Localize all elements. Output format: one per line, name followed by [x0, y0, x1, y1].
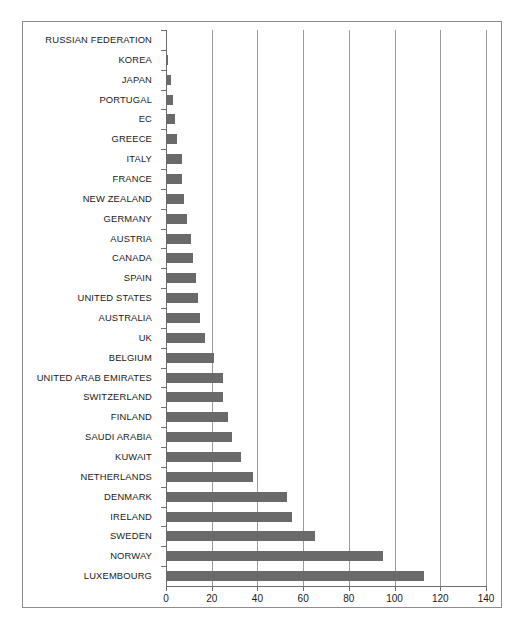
bar [166, 512, 292, 522]
x-tick-label: 140 [478, 593, 495, 604]
category-label: NETHERLANDS [81, 472, 152, 482]
category-label: LUXEMBOURG [84, 571, 152, 581]
y-tick [161, 209, 166, 210]
x-tick-label: 0 [163, 593, 169, 604]
category-label: JAPAN [122, 75, 152, 85]
category-label: KUWAIT [115, 452, 152, 462]
x-tick-mark-80 [349, 586, 350, 591]
bar [166, 531, 315, 541]
bar [166, 373, 223, 383]
bar [166, 174, 182, 184]
x-tick-label: 120 [432, 593, 449, 604]
x-tick-mark-0 [166, 586, 167, 591]
bar [166, 472, 253, 482]
x-tick-label: 60 [298, 593, 309, 604]
bar [166, 134, 177, 144]
category-label: FRANCE [113, 174, 152, 184]
x-tick-mark-140 [486, 586, 487, 591]
y-tick [161, 507, 166, 508]
y-tick [161, 50, 166, 51]
category-label: UK [139, 333, 152, 343]
bars-layer [166, 30, 486, 586]
category-label: GERMANY [104, 214, 152, 224]
y-tick [161, 169, 166, 170]
bar [166, 273, 196, 283]
y-tick [161, 546, 166, 547]
bar [166, 571, 424, 581]
y-tick [161, 149, 166, 150]
y-tick [161, 268, 166, 269]
y-tick [161, 328, 166, 329]
bar [166, 452, 241, 462]
y-tick [161, 526, 166, 527]
bar [166, 95, 173, 105]
bar [166, 333, 205, 343]
y-tick [161, 70, 166, 71]
category-label: PORTUGAL [99, 95, 152, 105]
y-tick [161, 348, 166, 349]
category-label: UNITED STATES [77, 293, 152, 303]
y-tick [161, 387, 166, 388]
bar [166, 313, 200, 323]
category-label: KOREA [118, 55, 152, 65]
bar [166, 353, 214, 363]
y-tick [161, 566, 166, 567]
category-label: GREECE [112, 134, 153, 144]
y-tick [161, 427, 166, 428]
bar [166, 432, 232, 442]
y-tick [161, 288, 166, 289]
y-tick [161, 109, 166, 110]
category-label: FINLAND [111, 412, 152, 422]
bar [166, 214, 187, 224]
y-tick [161, 90, 166, 91]
y-tick [161, 248, 166, 249]
chart-frame: RUSSIAN FEDERATIONKOREAJAPANPORTUGALECGR… [22, 21, 502, 608]
category-label: AUSTRIA [110, 234, 152, 244]
bar [166, 234, 191, 244]
bar [166, 412, 228, 422]
category-label: BELGIUM [109, 353, 152, 363]
bar [166, 492, 287, 502]
x-tick-mark-20 [212, 586, 213, 591]
bar [166, 253, 193, 263]
plot-area [166, 30, 486, 586]
x-tick-mark-100 [395, 586, 396, 591]
y-tick [161, 447, 166, 448]
category-label: DENMARK [104, 492, 152, 502]
category-label: SWEDEN [110, 531, 152, 541]
x-tick-mark-60 [303, 586, 304, 591]
category-label: NORWAY [110, 551, 152, 561]
y-tick [161, 467, 166, 468]
category-label: SWITZERLAND [83, 392, 152, 402]
y-tick [161, 189, 166, 190]
y-tick [161, 308, 166, 309]
category-label: AUSTRALIA [99, 313, 152, 323]
x-tick-mark-120 [440, 586, 441, 591]
x-tick-label: 40 [252, 593, 263, 604]
bar [166, 392, 223, 402]
bar [166, 154, 182, 164]
x-tick-label: 80 [343, 593, 354, 604]
bar [166, 293, 198, 303]
category-label: IRELAND [110, 512, 152, 522]
y-tick [161, 229, 166, 230]
category-label: EC [139, 114, 152, 124]
category-label: CANADA [112, 253, 152, 263]
y-tick [161, 487, 166, 488]
category-label: RUSSIAN FEDERATION [45, 35, 152, 45]
category-label: UNITED ARAB EMIRATES [37, 373, 152, 383]
bar [166, 114, 175, 124]
category-label: SAUDI ARABIA [85, 432, 152, 442]
category-label: SPAIN [124, 273, 152, 283]
y-tick [161, 129, 166, 130]
y-tick [161, 30, 166, 31]
y-tick [161, 407, 166, 408]
x-axis-line [166, 586, 487, 587]
y-tick [161, 368, 166, 369]
category-label: NEW ZEALAND [83, 194, 152, 204]
x-tick-mark-40 [257, 586, 258, 591]
gridline-140 [486, 30, 487, 586]
x-tick-label: 20 [206, 593, 217, 604]
bar [166, 75, 171, 85]
bar [166, 194, 184, 204]
